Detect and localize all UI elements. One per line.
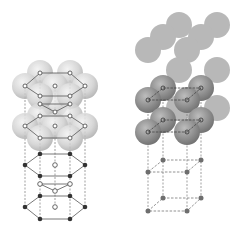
cubic-wireframe xyxy=(148,160,201,211)
crystal-structures-diagram xyxy=(0,0,245,235)
hcp-structure xyxy=(12,60,98,221)
cubic-structure xyxy=(135,12,230,214)
hcp-wireframe-filled-atoms xyxy=(23,152,88,222)
